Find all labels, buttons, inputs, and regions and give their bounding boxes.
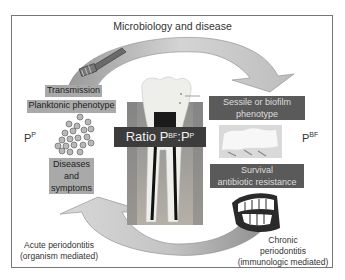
survival-line-1: Survival — [210, 164, 304, 176]
ratio-label: Ratio PBF:PP — [114, 127, 206, 147]
transmission-label: Transmission — [45, 85, 102, 97]
survival-antibiotic-resistance-label: Survival antibiotic resistance — [210, 164, 304, 188]
ratio-mid: :P — [177, 129, 189, 144]
acute-line-1: Acute periodontitis — [14, 240, 104, 251]
teeth-jaw-icon — [232, 193, 280, 232]
survival-line-2: antibiotic resistance — [210, 176, 304, 188]
diseases-line-3: symptoms — [49, 182, 94, 194]
diseases-line-2: and — [49, 170, 94, 182]
chronic-periodontitis-caption: Chronic periodontitis (immunologic media… — [232, 235, 334, 268]
chronic-line-3: (immunologic mediated) — [232, 257, 334, 268]
tooth-cross-section-image — [127, 77, 203, 225]
diagram-title: Microbiology and disease — [0, 20, 345, 32]
acute-periodontitis-caption: Acute periodontitis (organism mediated) — [14, 240, 104, 262]
planktonic-phenotype-label: Planktonic phenotype — [27, 100, 116, 113]
sessile-line-1: Sessile or biofilm — [209, 96, 305, 108]
pp-sup: P — [31, 131, 36, 138]
chronic-line-2: periodontitis — [232, 246, 334, 257]
planktonic-population-label: PP — [24, 132, 36, 144]
biofilm-population-label: PBF — [302, 132, 318, 144]
diseases-line-1: Diseases — [49, 158, 94, 170]
ratio-prefix: Ratio P — [126, 129, 169, 144]
ratio-sup-bf: BF — [168, 132, 177, 139]
chronic-line-1: Chronic — [232, 235, 334, 246]
ratio-sup-p: P — [190, 132, 195, 139]
biofilm-micrograph-image — [219, 125, 282, 158]
bacteria-cluster-icon — [55, 114, 94, 155]
sessile-biofilm-label: Sessile or biofilm phenotype — [209, 96, 305, 120]
sessile-line-2: phenotype — [209, 108, 305, 120]
acute-line-2: (organism mediated) — [14, 251, 104, 262]
pbf-sup: BF — [309, 131, 318, 138]
diseases-symptoms-label: Diseases and symptoms — [49, 158, 94, 194]
